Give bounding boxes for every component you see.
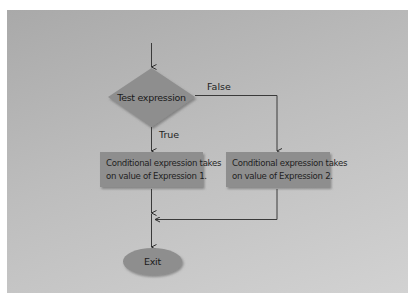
true-branch-connector: True [152, 127, 180, 151]
exit-terminal: Exit [123, 248, 182, 275]
process-box-expression-2: Conditional expression takes on value of… [226, 152, 348, 187]
process-2-line-1: Conditional expression takes [232, 158, 348, 168]
flowchart: Test expression False True Conditional e… [0, 0, 414, 296]
decision-label: Test expression [116, 92, 186, 103]
merge-connector [152, 189, 278, 247]
false-label: False [207, 81, 231, 92]
process-1-line-2: on value of Expression 1. [106, 171, 207, 181]
process-1-line-1: Conditional expression takes [106, 158, 222, 168]
exit-label: Exit [144, 256, 161, 267]
process-2-line-2: on value of Expression 2. [232, 171, 333, 181]
true-label: True [158, 129, 179, 140]
decision-diamond: Test expression [108, 68, 195, 127]
process-box-expression-1: Conditional expression takes on value of… [100, 152, 222, 187]
false-branch-connector: False [195, 81, 277, 152]
